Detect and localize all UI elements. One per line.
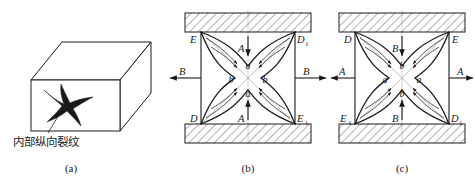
panel-c-center-label-bottom: b — [400, 88, 405, 99]
panel-b-corner-label-top-right: D 1 — [296, 34, 309, 48]
panel-b-force-label-vertical-bottom: A — [237, 113, 245, 124]
panel-c-center-label-left: a — [383, 74, 388, 85]
panel-b-corner-label-top-right-subscript: 1 — [305, 40, 309, 48]
panel-c-center-label-top: b — [400, 60, 405, 71]
panel-a: 内部纵向裂纹 (a) — [13, 42, 151, 175]
panel-b-corner-label-bottom-left: D — [189, 113, 198, 124]
panel-b-force-label-horizontal-right: B — [303, 66, 310, 77]
panel-c-force-label-horizontal-right: A — [456, 66, 464, 77]
panel-b-force-label-vertical-top: A — [237, 43, 245, 54]
panel-b-center-label-top: a — [246, 60, 251, 71]
panel-b: E D 1 D E 1 A A B B a b b a (b) — [170, 10, 326, 175]
panel-b-corner-label-top-left: E — [189, 34, 197, 45]
panel-b-center-label-right: b — [263, 74, 268, 85]
panel-c-bottom-platen — [339, 124, 465, 143]
panel-c-top-platen — [339, 13, 465, 32]
crack-annotation-label: 内部纵向裂纹 — [13, 135, 80, 149]
panel-b-bottom-platen — [185, 124, 311, 143]
panel-c-force-label-vertical-bottom: B — [392, 113, 399, 124]
caption-a: (a) — [65, 162, 78, 175]
panel-b-corner-label-bottom-right-letter: E — [296, 113, 304, 124]
panel-c-corner-label-bottom-left-subscript: 1 — [348, 119, 352, 127]
panel-b-top-platen — [185, 13, 311, 32]
panel-c-corner-label-bottom-left-letter: E — [339, 113, 347, 124]
panel-b-force-label-horizontal-left: B — [179, 66, 186, 77]
panel-c-corner-label-bottom-right-subscript: 1 — [459, 119, 463, 127]
panel-c-center-label-right: a — [417, 74, 422, 85]
panel-b-center-label-left: b — [229, 74, 234, 85]
panel-c: D E E 1 D 1 B B A A b a a b (c) — [331, 10, 473, 175]
panel-c-corner-label-top-right: E — [451, 34, 459, 45]
panel-c-force-label-horizontal-left: A — [338, 66, 346, 77]
caption-c: (c) — [396, 162, 409, 175]
panel-c-corner-label-top-left: D — [343, 34, 352, 45]
caption-b: (b) — [242, 162, 255, 175]
panel-c-corner-label-bottom-right-letter: D — [450, 113, 459, 124]
panel-c-force-label-vertical-top: B — [392, 43, 399, 54]
isometric-bar — [31, 42, 151, 131]
panel-b-corner-label-top-right-letter: D — [296, 34, 305, 45]
panel-b-corner-label-bottom-right-subscript: 1 — [305, 119, 309, 127]
figure-canvas: 内部纵向裂纹 (a) — [0, 0, 475, 182]
panel-b-center-label-bottom: a — [246, 88, 251, 99]
